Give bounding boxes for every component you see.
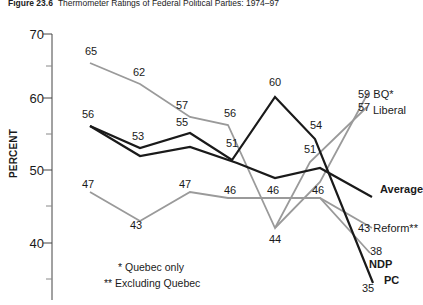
point-label: 46	[312, 184, 324, 196]
point-label: 60	[269, 76, 281, 88]
series-label-pc-value: 35	[362, 282, 374, 294]
point-label: 57	[176, 99, 188, 111]
series-label-average: Average	[380, 183, 423, 195]
point-label: 56	[82, 108, 94, 120]
point-label: 53	[132, 130, 144, 142]
point-label: 47	[179, 178, 191, 190]
point-label: 65	[85, 45, 97, 57]
point-label: 56	[224, 107, 236, 119]
footnote-quebec-only: * Quebec only	[118, 261, 184, 273]
series-label-ndp-value: 38	[370, 245, 382, 257]
series-label-ndp: NDP	[369, 258, 392, 270]
point-label: 51	[226, 137, 238, 149]
series-label-liberal: Liberal	[373, 104, 406, 116]
point-label: 46	[224, 184, 236, 196]
point-label: 62	[133, 66, 145, 78]
series-label-liberal-value: 57	[358, 101, 370, 113]
series-label-reform: 43 Reform**	[358, 222, 418, 234]
point-label: 47	[82, 178, 94, 190]
series-label-pc: PC	[384, 274, 399, 286]
point-label: 43	[130, 219, 142, 231]
point-label: 46	[267, 184, 279, 196]
point-label: 55	[176, 116, 188, 128]
series-line-bq	[275, 93, 368, 228]
point-label: 51	[304, 143, 316, 155]
footnote-excluding-quebec: ** Excluding Quebec	[104, 277, 200, 289]
point-label: 44	[269, 233, 281, 245]
series-label-bq: 59 BQ*	[358, 88, 393, 100]
point-label: 54	[310, 119, 322, 131]
